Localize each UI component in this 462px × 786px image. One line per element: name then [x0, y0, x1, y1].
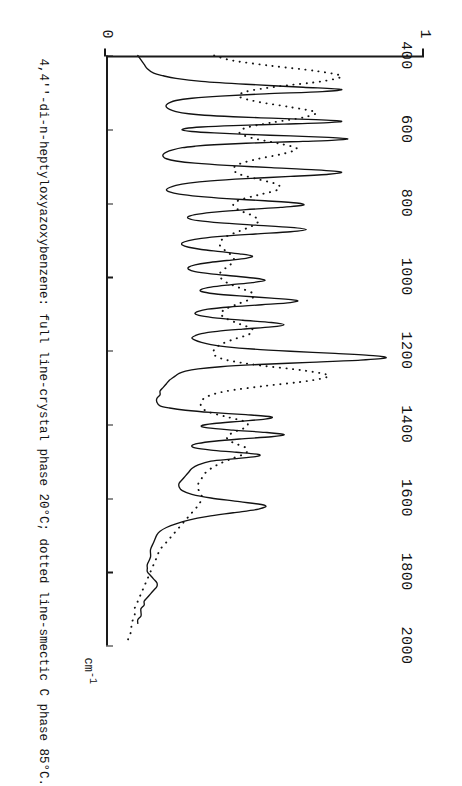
- x-tick-label: 1000: [397, 257, 414, 295]
- x-tick: [106, 645, 113, 646]
- x-tick-label: 1200: [397, 331, 414, 369]
- x-tick: [106, 498, 113, 499]
- y-tick-label: 0: [98, 29, 115, 38]
- axis-unit-base: cm: [81, 657, 95, 671]
- axis-unit-label: cm-1: [81, 657, 98, 683]
- y-tick-label: 1: [416, 29, 433, 38]
- x-tick: [106, 350, 113, 351]
- x-tick-label: 1400: [397, 405, 414, 443]
- figure-caption: 4,4''-di-n-heptyloxyazoxybenzene: full l…: [36, 58, 50, 786]
- x-tick-label: 600: [397, 114, 414, 143]
- plot-area: 40060080010001200140016001800200001: [106, 55, 424, 645]
- x-tick-label: 1800: [397, 552, 414, 590]
- x-tick: [106, 55, 113, 56]
- y-axis-spine: [106, 55, 424, 57]
- y-tick: [422, 48, 424, 56]
- x-tick: [106, 571, 113, 572]
- axis-unit-exponent: -1: [87, 671, 98, 683]
- x-tick-label: 1600: [397, 478, 414, 516]
- x-tick-label: 2000: [397, 626, 414, 664]
- x-tick: [106, 129, 113, 130]
- x-tick-label: 400: [397, 41, 414, 70]
- x-tick: [106, 276, 113, 277]
- x-tick-label: 800: [397, 188, 414, 217]
- spectrum-traces: [106, 55, 424, 645]
- x-tick: [106, 424, 113, 425]
- trace-solid: [138, 55, 387, 623]
- y-tick: [104, 48, 106, 56]
- x-tick: [106, 203, 113, 204]
